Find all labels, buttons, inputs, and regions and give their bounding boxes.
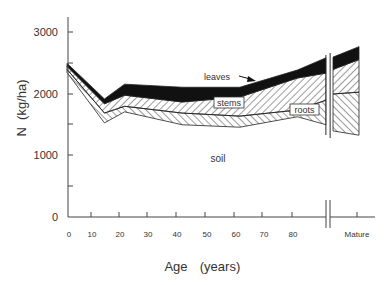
- x-axis: [68, 200, 375, 228]
- x-tick-label: 30: [144, 230, 153, 239]
- x-axis-unit: (years): [200, 259, 240, 274]
- y-tick-label: 2000: [34, 88, 58, 100]
- axis-break-gap: [327, 50, 330, 140]
- roots-area-mature: [333, 92, 359, 135]
- x-tick-label: 20: [116, 230, 125, 239]
- x-tick-label-mature: Mature: [345, 230, 370, 239]
- plot-areas: [67, 47, 359, 140]
- y-tick-label: 0: [52, 211, 58, 223]
- nitrogen-stacked-area-chart: 3000 2000 1000 0 N (kg/ha) 0 10 20 30 40…: [0, 0, 390, 285]
- y-tick-label: 3000: [34, 26, 58, 38]
- stems-label: stems: [217, 98, 242, 108]
- y-axis: [68, 17, 73, 217]
- x-tick-label: 80: [289, 230, 298, 239]
- x-tick-label: 40: [173, 230, 182, 239]
- x-tick-label: 10: [88, 230, 97, 239]
- y-axis-label: N (kg/ha): [14, 79, 29, 136]
- leaves-label: leaves: [204, 72, 231, 82]
- roots-label: roots: [294, 105, 315, 115]
- x-tick-label: 0: [67, 230, 72, 239]
- leaves-arrow-icon: [239, 76, 256, 82]
- soil-label: soil: [210, 153, 225, 164]
- x-tick-label: 50: [203, 230, 212, 239]
- x-tick-label: 70: [260, 230, 269, 239]
- y-tick-label: 1000: [34, 149, 58, 161]
- x-tick-label: 60: [232, 230, 241, 239]
- x-axis-label: Age: [164, 259, 187, 274]
